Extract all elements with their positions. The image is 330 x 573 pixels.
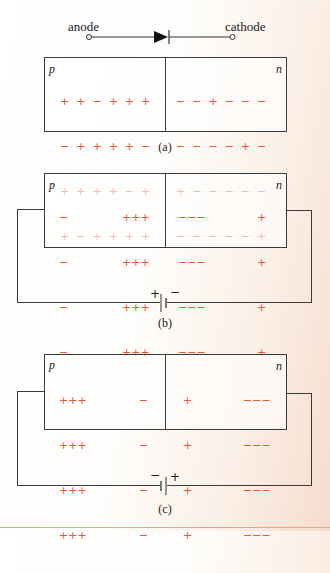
pn-junction-c: p n +++ +++ +++ +++ − − − − + + + + −−− … — [44, 354, 287, 430]
battery-left-terminal: + — [150, 287, 160, 301]
charge-row: − + + + + − — [60, 139, 150, 154]
p-region-label: p — [49, 62, 55, 77]
n-region-donors: + + + + — [183, 363, 197, 573]
wire — [287, 393, 312, 394]
charge-row: +++ — [122, 210, 150, 225]
charge-row: + — [183, 438, 197, 453]
charge-row: − − − − + − — [176, 139, 266, 154]
p-region-label: p — [49, 178, 55, 193]
charge-row: +++ — [59, 438, 87, 453]
charge-row: −−− — [243, 393, 271, 408]
charge-row: − − + − − − — [176, 94, 266, 109]
pn-junction-b: p n − − − − +++ +++ +++ +++ −−− −−− −−− … — [44, 173, 287, 248]
n-region-label: n — [276, 62, 282, 77]
n-region-label: n — [276, 359, 282, 374]
charge-row: −−− — [243, 438, 271, 453]
charge-row: − — [139, 528, 153, 543]
caption-c: (c) — [158, 502, 171, 517]
charge-row: + — [183, 393, 197, 408]
charge-row: −−− — [243, 528, 271, 543]
wire — [17, 391, 18, 486]
charge-row: − — [139, 393, 153, 408]
n-region-electrons: −−− −−− −−− −−− — [243, 363, 271, 573]
p-region-label: p — [49, 358, 55, 373]
wire — [167, 485, 312, 486]
wire — [17, 209, 18, 303]
wire — [17, 209, 44, 210]
wire — [17, 391, 44, 392]
wire — [287, 210, 312, 211]
charge-row: − — [59, 210, 73, 225]
charge-row: + — [183, 528, 197, 543]
wire — [17, 485, 160, 486]
charge-row: −−− — [178, 255, 206, 270]
charge-row: + + − + + + — [60, 94, 150, 109]
junction-line — [165, 355, 166, 429]
page-rule — [0, 527, 330, 528]
wire — [167, 302, 312, 303]
charge-row: + — [257, 255, 271, 270]
wire — [311, 393, 312, 486]
battery-left-terminal: − — [150, 468, 160, 482]
battery-right-terminal: − — [170, 285, 180, 299]
charge-row: + — [257, 210, 271, 225]
caption-a: (a) — [158, 140, 171, 155]
charge-row: − — [59, 255, 73, 270]
p-region-holes: +++ +++ +++ +++ — [59, 363, 87, 573]
charge-row: +++ — [122, 255, 150, 270]
junction-line — [165, 174, 166, 247]
n-region-label: n — [276, 178, 282, 193]
charge-row: − — [139, 438, 153, 453]
wire — [311, 210, 312, 303]
charge-row: +++ — [59, 528, 87, 543]
junction-line — [165, 58, 166, 131]
caption-b: (b) — [158, 316, 172, 331]
wire — [17, 302, 160, 303]
pn-junction-a: p n + + − + + + − + + + + − + + + + − + … — [44, 57, 287, 132]
battery-right-terminal: + — [170, 470, 180, 484]
diode-icon — [84, 30, 244, 46]
charge-row: −−− — [178, 210, 206, 225]
charge-row: +++ — [59, 393, 87, 408]
